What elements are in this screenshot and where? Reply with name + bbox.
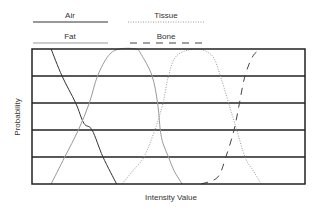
series-group bbox=[51, 48, 261, 184]
x-axis-label: Intensity Value bbox=[145, 193, 197, 202]
series-fat-curve bbox=[51, 48, 182, 184]
legend-label-bone: Bone bbox=[157, 32, 176, 41]
legend-item-tissue: Tissue bbox=[128, 11, 205, 22]
chart: Air Tissue Fat Bone Intensity Value Prob… bbox=[0, 0, 320, 209]
legend-item-bone: Bone bbox=[130, 32, 203, 43]
legend-item-air: Air bbox=[33, 11, 108, 22]
gridlines bbox=[32, 76, 305, 157]
legend-label-tissue: Tissue bbox=[154, 11, 178, 20]
plot-area bbox=[32, 48, 305, 184]
y-axis-label: Probability bbox=[13, 98, 22, 135]
legend-label-air: Air bbox=[65, 11, 75, 20]
legend-item-fat: Fat bbox=[33, 32, 108, 43]
plot-frame bbox=[32, 49, 305, 184]
legend-label-fat: Fat bbox=[64, 32, 76, 41]
series-tissue-curve bbox=[122, 49, 261, 184]
legend: Air Tissue Fat Bone bbox=[33, 11, 205, 43]
series-bone-curve bbox=[201, 49, 261, 184]
